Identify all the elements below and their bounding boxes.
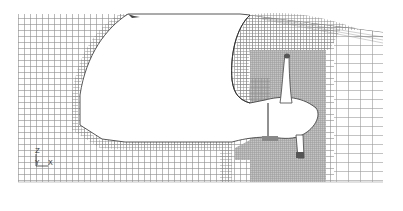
axis-y-label: Y — [35, 160, 39, 167]
mesh-canvas — [0, 0, 403, 211]
axis-z-label: Z — [35, 148, 40, 155]
lower-blade — [296, 135, 304, 158]
axis-x-label: X — [48, 160, 53, 167]
shaft-hub — [262, 136, 278, 141]
mesh-diagram: Z Y X — [0, 0, 403, 211]
